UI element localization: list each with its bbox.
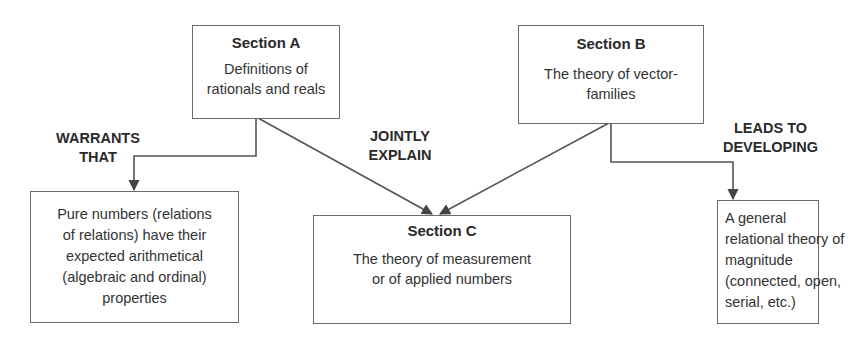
text-line: (connected, open, [725,271,818,292]
magnitude-box: A general relational theory of magnitude… [717,200,819,324]
magnitude-text: A general relational theory of magnitude… [725,208,818,313]
pure-numbers-text: Pure numbers (relations of relations) ha… [31,204,238,309]
text-line: rationals and reals [193,79,339,99]
section-c-box: Section C The theory of measurement or o… [313,215,571,324]
pure-numbers-box: Pure numbers (relations of relations) ha… [30,191,239,323]
section-a-box: Section A Definitions of rationals and r… [192,25,340,119]
label-line: WARRANTS [38,129,158,148]
label-line: DEVELOPING [708,138,833,157]
text-line: or of applied numbers [314,269,570,289]
text-line: (algebraic and ordinal) [31,267,238,288]
section-b-text: The theory of vector- families [519,64,703,104]
text-line: A general [725,208,818,229]
text-line: families [519,84,703,104]
text-line: properties [31,288,238,309]
section-b-title: Section B [519,35,703,52]
text-line: expected arithmetical [31,246,238,267]
text-line: Definitions of [193,59,339,79]
text-line: The theory of vector- [519,64,703,84]
section-a-title: Section A [193,34,339,51]
text-line: relational theory of [725,229,818,250]
text-line: of relations) have their [31,225,238,246]
text-line: Pure numbers (relations [31,204,238,225]
b-to-c-arrow [440,123,609,214]
label-line: JOINTLY [355,127,445,146]
text-line: magnitude [725,250,818,271]
text-line: The theory of measurement [314,249,570,269]
label-line: LEADS TO [708,119,833,138]
label-line: THAT [38,148,158,167]
section-c-text: The theory of measurement or of applied … [314,249,570,289]
label-line: EXPLAIN [355,146,445,165]
jointly-explain-label: JOINTLY EXPLAIN [355,127,445,165]
section-a-text: Definitions of rationals and reals [193,59,339,99]
section-c-title: Section C [314,222,570,239]
leads-to-developing-label: LEADS TO DEVELOPING [708,119,833,157]
text-line: serial, etc.) [725,292,818,313]
section-b-box: Section B The theory of vector- families [518,25,704,124]
warrants-label: WARRANTS THAT [38,129,158,167]
